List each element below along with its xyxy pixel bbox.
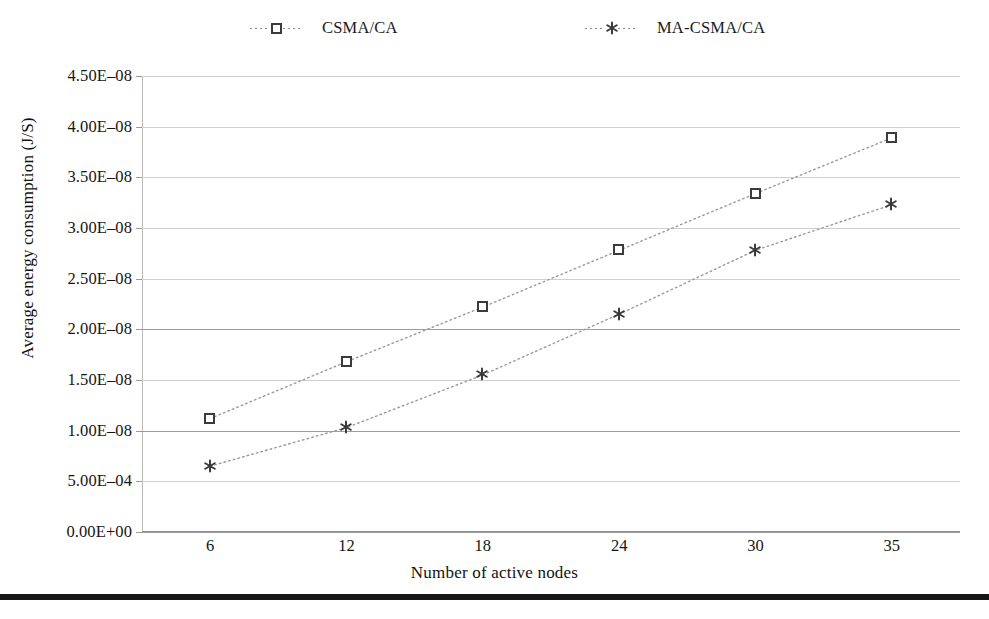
y-axis-title: Average energy consumption (J/S) <box>18 28 38 448</box>
x-axis-tick-label: 35 <box>884 536 901 556</box>
x-axis-tick-label: 30 <box>747 536 764 556</box>
series-line <box>210 138 892 419</box>
x-axis-title: Number of active nodes <box>0 563 989 583</box>
x-axis-tick-label: 18 <box>475 536 492 556</box>
series-line <box>210 205 892 466</box>
x-axis-tick-label: 12 <box>338 536 355 556</box>
legend-label: CSMA/CA <box>322 18 398 38</box>
asterisk-icon <box>605 22 618 35</box>
legend-line-icon <box>618 28 638 29</box>
legend-line-icon <box>250 28 270 29</box>
open-square-icon <box>270 22 283 35</box>
legend-entry-ma-csma-ca[interactable]: MA-CSMA/CA <box>585 12 765 44</box>
figure-chart-average-energy-consumption: CSMA/CA MA-CSMA/CA 4.50E–084.00E–083.50E… <box>0 0 989 619</box>
legend-line-icon <box>283 28 303 29</box>
y-axis-tick-label: 5.00E–04 <box>14 471 132 491</box>
legend-entry-csma-ca[interactable]: CSMA/CA <box>250 12 398 44</box>
y-axis-tick-label: 0.00E+00 <box>14 522 132 542</box>
legend-label: MA-CSMA/CA <box>657 18 765 38</box>
x-axis-tick-label: 6 <box>206 536 214 556</box>
plot-area <box>142 76 960 532</box>
legend-line-icon <box>585 28 605 29</box>
x-axis-tick-labels: 61218243035 <box>142 536 960 562</box>
bottom-divider-rule <box>0 594 989 600</box>
series-lines <box>142 76 960 532</box>
gridline <box>142 532 960 533</box>
chart-legend: CSMA/CA MA-CSMA/CA <box>0 12 989 46</box>
x-axis-tick-label: 24 <box>611 536 628 556</box>
